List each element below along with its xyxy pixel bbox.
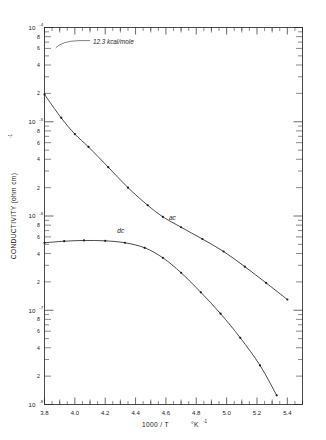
data-point bbox=[286, 298, 288, 300]
series-ac bbox=[43, 93, 288, 300]
y-minor-label: 2 bbox=[37, 185, 40, 191]
series-layer bbox=[43, 93, 288, 396]
data-point bbox=[127, 187, 129, 189]
x-tick-label: 4.6 bbox=[162, 410, 171, 416]
y-decade-label: 10 bbox=[29, 212, 36, 219]
data-point bbox=[43, 242, 45, 244]
y-decade-label: 10 bbox=[29, 307, 36, 314]
data-point bbox=[124, 242, 126, 244]
series-line-dc bbox=[45, 240, 277, 395]
x-tick-label: 3.8 bbox=[40, 410, 49, 416]
y-minor-label: 4 bbox=[37, 345, 40, 351]
annotation-text: 12.3 kcal/mole bbox=[93, 38, 134, 45]
x-tick-label: 4.0 bbox=[71, 410, 80, 416]
x-tick-label: 5.4 bbox=[283, 410, 292, 416]
data-point bbox=[200, 291, 202, 293]
x-tick-label: 5.2 bbox=[253, 410, 262, 416]
x-tick-label: 4.8 bbox=[192, 410, 201, 416]
data-point bbox=[60, 117, 62, 119]
data-point bbox=[265, 282, 267, 284]
x-tick-label: 4.4 bbox=[131, 410, 140, 416]
y-minor-label: 8 bbox=[37, 128, 40, 134]
series-label-dc: dc bbox=[117, 227, 125, 234]
y-minor-label: 4 bbox=[37, 156, 40, 162]
y-minor-label: 4 bbox=[37, 62, 40, 68]
data-point bbox=[180, 226, 182, 228]
data-point bbox=[219, 313, 221, 315]
data-point bbox=[104, 240, 106, 242]
data-point bbox=[201, 238, 203, 240]
y-decade-label: 10 bbox=[29, 118, 36, 125]
y-minor-label: 2 bbox=[37, 279, 40, 285]
data-point bbox=[83, 239, 85, 241]
x-axis-title: 1000 / T °K -1 bbox=[142, 419, 208, 428]
y-minor-label: 4 bbox=[37, 251, 40, 257]
y-minor-label: 2 bbox=[37, 373, 40, 379]
data-point bbox=[276, 394, 278, 396]
annotation-leader-line bbox=[56, 41, 90, 48]
y-axis-title-text: CONDUCTIVITY (ohm cm) bbox=[10, 173, 18, 259]
x-tick-label: 5.0 bbox=[222, 410, 231, 416]
data-point bbox=[239, 337, 241, 339]
series-label-ac: ac bbox=[169, 214, 177, 221]
y-minor-label: 6 bbox=[37, 328, 40, 334]
data-point bbox=[144, 247, 146, 249]
y-minor-label: 8 bbox=[37, 316, 40, 322]
data-point bbox=[162, 257, 164, 259]
data-point bbox=[259, 364, 261, 366]
y-decade-exponent: -8 bbox=[39, 399, 43, 404]
y-minor-label: 8 bbox=[37, 34, 40, 40]
data-point bbox=[107, 166, 109, 168]
data-point bbox=[87, 146, 89, 148]
y-decade-exponent: -6 bbox=[39, 211, 43, 216]
plot-svg: 10-410-5246810-6246810-7246810-82468 3.8… bbox=[0, 0, 326, 440]
data-point bbox=[222, 250, 224, 252]
data-point bbox=[162, 216, 164, 218]
data-point bbox=[244, 266, 246, 268]
y-minor-label: 6 bbox=[37, 140, 40, 146]
data-point bbox=[63, 240, 65, 242]
data-point bbox=[180, 272, 182, 274]
y-decade-exponent: -4 bbox=[39, 22, 43, 27]
data-point bbox=[147, 204, 149, 206]
y-minor-label: 6 bbox=[37, 45, 40, 51]
y-decade-label: 10 bbox=[29, 24, 36, 31]
x-axis-title-unit-exponent: -1 bbox=[203, 419, 208, 424]
y-axis: 10-410-5246810-6246810-7246810-82468 bbox=[29, 22, 303, 408]
y-axis-title-exponent: -1 bbox=[8, 133, 13, 138]
x-tick-label: 4.2 bbox=[101, 410, 110, 416]
activation-energy-annotation: 12.3 kcal/mole bbox=[56, 38, 134, 48]
x-axis-title-unit: °K bbox=[191, 421, 199, 428]
y-minor-label: 2 bbox=[37, 90, 40, 96]
y-decade-label: 10 bbox=[29, 401, 36, 408]
conductivity-arrhenius-plot: 10-410-5246810-6246810-7246810-82468 3.8… bbox=[0, 0, 326, 440]
y-decade-exponent: -5 bbox=[39, 117, 43, 122]
y-minor-label: 6 bbox=[37, 234, 40, 240]
series-line-ac bbox=[45, 94, 288, 299]
series-dc bbox=[43, 239, 277, 396]
y-decade-exponent: -7 bbox=[39, 305, 43, 310]
x-axis-title-main: 1000 / T bbox=[142, 421, 169, 428]
y-minor-label: 8 bbox=[37, 222, 40, 228]
data-point bbox=[74, 133, 76, 135]
data-point bbox=[43, 93, 45, 95]
y-axis-title: CONDUCTIVITY (ohm cm) -1 bbox=[8, 133, 18, 259]
